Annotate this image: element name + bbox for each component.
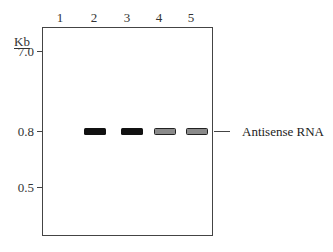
marker-label-0-5kb: 0.5 [12, 180, 34, 196]
band-lane-4 [154, 128, 176, 135]
marker-label-7kb: 7.0 [12, 44, 34, 60]
band-lane-5 [186, 128, 208, 135]
annotation-antisense-rna: Antisense RNA [242, 124, 324, 140]
lane-label-5: 5 [183, 10, 199, 26]
lane-label-3: 3 [119, 10, 135, 26]
lane-label-1: 1 [52, 10, 68, 26]
band-lane-3 [121, 128, 143, 135]
band-lane-2 [84, 128, 106, 135]
annotation-pointer-line [214, 131, 230, 132]
lane-label-2: 2 [86, 10, 102, 26]
lane-label-4: 4 [151, 10, 167, 26]
marker-label-0-8kb: 0.8 [12, 124, 34, 140]
